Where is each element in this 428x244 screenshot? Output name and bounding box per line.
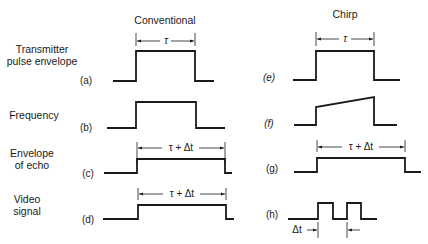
dimension-label: τ [164,35,169,46]
panel-e-waveform: τ [293,32,400,80]
dimension-label: τ [343,33,348,44]
panel-h-waveform: Δt [288,203,377,238]
dimension-label: τ + Δt [169,142,193,153]
column-heading-conventional: Conventional [134,14,195,26]
row-label-line: of echo [15,159,50,171]
row-label-line: pulse envelope [7,55,78,67]
panel-b-waveform [107,102,225,128]
row-label-video: Video signal [13,193,40,217]
panel-tag-a: (a) [80,75,92,86]
column-heading-chirp: Chirp [332,8,357,20]
panel-tag-f: (f) [264,118,273,129]
panel-g-waveform: τ + Δt [294,140,421,172]
chirp-vs-conventional-diagram: Conventional Chirp Transmitter pulse env… [0,0,428,244]
panel-tag-h: (h) [266,209,278,220]
panel-d-waveform: τ + Δt [103,188,234,219]
dimension-label: τ + Δt [170,188,194,199]
panel-tag-g: (g) [266,163,278,174]
panel-tag-e: (e) [263,72,275,83]
row-label-transmitter: Transmitter pulse envelope [7,43,78,67]
panel-tag-c: (c) [82,168,94,179]
row-label-line: Transmitter [16,43,69,55]
row-label-frequency: Frequency [9,109,59,121]
dimension-label: Δt [292,224,302,235]
panel-a-waveform: τ [113,33,214,81]
row-label-envelope-echo: Envelope of echo [10,147,54,171]
row-label-line: Video [14,193,41,205]
panel-c-waveform: τ + Δt [104,142,232,173]
panel-tag-b: (b) [80,122,92,133]
row-label-line: Envelope [10,147,54,159]
panel-f-waveform [294,97,397,125]
panel-tag-d: (d) [82,214,94,225]
dimension-label: τ + Δt [349,141,373,152]
row-label-line: signal [13,205,40,217]
row-label-line: Frequency [9,109,59,121]
